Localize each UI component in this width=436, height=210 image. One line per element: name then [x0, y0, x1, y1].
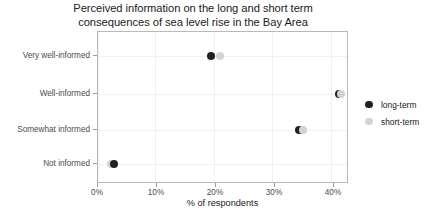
plot-panel	[97, 31, 348, 183]
y-axis-label: Somewhat informed	[17, 125, 90, 134]
gridline-vertical	[155, 32, 156, 182]
y-axis-tick	[93, 93, 97, 94]
x-axis-tick	[274, 183, 275, 187]
y-axis-label: Well-informed	[40, 89, 90, 98]
y-axis-tick	[93, 55, 97, 56]
data-point-long-term	[207, 52, 215, 60]
legend-label: long-term	[381, 100, 416, 110]
gridline-horizontal	[98, 94, 347, 95]
x-axis-ticklabel: 10%	[148, 188, 164, 198]
y-axis-label: Very well-informed	[23, 51, 90, 60]
gridline-vertical	[331, 32, 332, 182]
scatter-chart: Perceived information on the long and sh…	[0, 0, 436, 210]
data-point-short-term	[299, 126, 307, 134]
x-axis-ticklabel: 0%	[91, 188, 103, 198]
gridline-horizontal	[98, 164, 347, 165]
x-axis-tick	[333, 183, 334, 187]
x-axis-tick	[215, 183, 216, 187]
x-axis-tick	[156, 183, 157, 187]
gridline-vertical	[272, 32, 273, 182]
data-point-short-term	[337, 90, 345, 98]
legend-item-short-term: short-term	[362, 113, 436, 130]
legend-marker-long-term	[362, 101, 376, 109]
legend-label: short-term	[381, 117, 419, 127]
x-axis-tick	[97, 183, 98, 187]
legend-item-long-term: long-term	[362, 96, 436, 113]
y-axis-tick	[93, 163, 97, 164]
y-axis-label: Not informed	[43, 159, 90, 168]
y-axis-tick	[93, 129, 97, 130]
gridline-horizontal	[98, 130, 347, 131]
legend-marker-short-term	[362, 118, 376, 126]
x-axis-title: % of respondents	[97, 198, 348, 208]
x-axis-ticklabel: 30%	[266, 188, 282, 198]
x-axis-ticklabel: 40%	[325, 188, 341, 198]
data-point-short-term	[216, 52, 224, 60]
y-axis-labels: Very well-informed Well-informed Somewha…	[0, 0, 90, 210]
x-axis-ticklabel: 20%	[207, 188, 223, 198]
legend: long-term short-term	[362, 96, 436, 130]
gridline-vertical	[98, 32, 99, 182]
data-point-long-term	[110, 160, 118, 168]
